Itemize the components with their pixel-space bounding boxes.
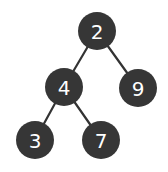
node-label: 3 <box>29 129 42 153</box>
node-label: 2 <box>91 20 104 44</box>
tree-node-9: 9 <box>119 69 157 107</box>
tree-node-2: 2 <box>78 12 116 50</box>
tree-node-4: 4 <box>45 68 83 106</box>
node-label: 4 <box>58 76 71 100</box>
tree-nodes: 24937 <box>16 12 157 159</box>
binary-tree-diagram: 24937 <box>0 0 168 172</box>
tree-node-7: 7 <box>82 121 120 159</box>
tree-node-3: 3 <box>16 121 54 159</box>
node-label: 9 <box>132 77 145 101</box>
node-label: 7 <box>95 129 108 153</box>
